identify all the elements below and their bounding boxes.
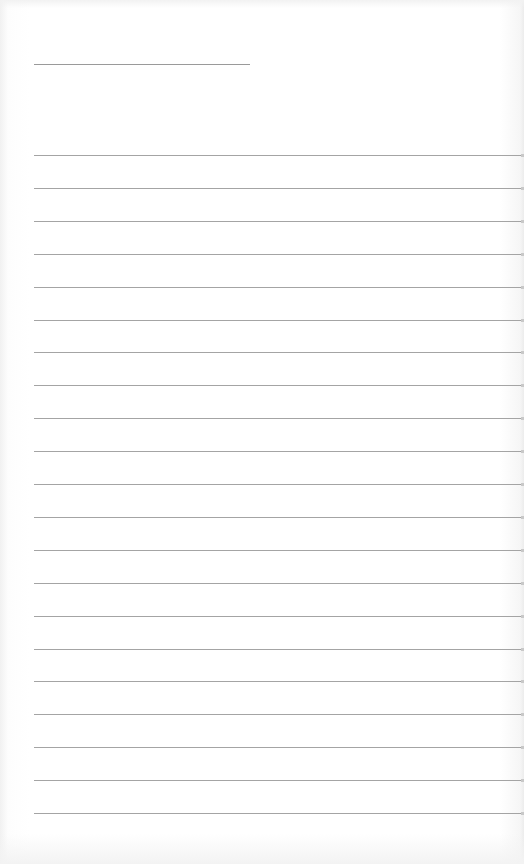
ruled-line [34,649,524,650]
ruled-line [34,352,524,353]
ruled-line [34,451,524,452]
ruled-line [34,747,524,748]
title-line [34,64,250,65]
ruled-line [34,484,524,485]
ruled-line [34,616,524,617]
ruled-line [34,221,524,222]
ruled-line [34,813,524,814]
ruled-line [34,517,524,518]
lined-paper-sheet [0,0,524,864]
ruled-line [34,254,524,255]
ruled-line [34,583,524,584]
ruled-line [34,714,524,715]
ruled-line [34,385,524,386]
ruled-line [34,188,524,189]
ruled-line [34,780,524,781]
ruled-line [34,287,524,288]
ruled-line [34,320,524,321]
ruled-line [34,681,524,682]
ruled-line [34,418,524,419]
ruled-line [34,155,524,156]
ruled-line [34,550,524,551]
